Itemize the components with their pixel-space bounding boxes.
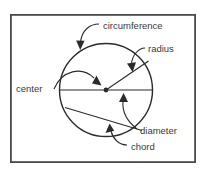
diagram-canvas: circumference radius center diameter cho… xyxy=(0,0,208,171)
label-circumference: circumference xyxy=(103,20,163,31)
circle-parts-diagram: circumference radius center diameter cho… xyxy=(0,0,208,171)
label-diameter: diameter xyxy=(140,125,177,136)
label-chord: chord xyxy=(131,141,155,152)
center-point xyxy=(104,88,109,93)
label-radius: radius xyxy=(148,43,174,54)
label-center: center xyxy=(16,83,42,94)
